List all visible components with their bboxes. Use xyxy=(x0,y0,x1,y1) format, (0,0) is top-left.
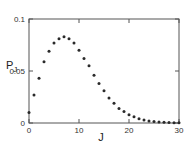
x-tick-label: 20 xyxy=(125,126,134,135)
data-point xyxy=(78,49,81,52)
y-tick-label: 0.1 xyxy=(14,15,26,24)
data-point xyxy=(43,60,46,63)
data-point xyxy=(133,115,136,118)
data-point xyxy=(153,120,156,123)
data-point xyxy=(158,120,161,123)
data-point xyxy=(113,102,116,105)
x-tick-label: 10 xyxy=(75,126,84,135)
data-point xyxy=(93,74,96,77)
y-tick-label: 0 xyxy=(21,119,26,128)
y-axis-label-main: P xyxy=(6,59,13,71)
data-point xyxy=(98,82,101,85)
data-point xyxy=(103,89,106,92)
data-point xyxy=(118,107,121,110)
plot-frame xyxy=(29,19,179,123)
data-point xyxy=(148,119,151,122)
axis-ticks: 010203000.050.1 xyxy=(9,15,184,135)
data-points xyxy=(28,35,181,124)
data-point xyxy=(63,35,66,38)
data-point xyxy=(138,117,141,120)
data-point xyxy=(163,121,166,124)
data-point xyxy=(143,118,146,121)
data-point xyxy=(88,64,91,67)
data-point xyxy=(48,50,51,53)
data-point xyxy=(168,121,171,124)
x-tick-label: 30 xyxy=(175,126,184,135)
data-point xyxy=(173,121,176,124)
data-point xyxy=(73,41,76,44)
data-point xyxy=(33,93,36,96)
data-point xyxy=(108,97,111,100)
data-point xyxy=(68,37,71,40)
scatter-chart: 010203000.050.1 J PJ xyxy=(0,0,190,146)
x-axis-label: J xyxy=(98,131,104,143)
data-point xyxy=(178,121,181,124)
data-point xyxy=(123,110,126,113)
data-point xyxy=(128,113,131,116)
x-tick-label: 0 xyxy=(27,126,32,135)
data-point xyxy=(53,41,56,44)
data-point xyxy=(58,37,61,40)
data-point xyxy=(28,111,31,114)
plot-border xyxy=(29,19,179,123)
y-axis-label-subscript: J xyxy=(13,65,17,74)
data-point xyxy=(83,57,86,60)
data-point xyxy=(38,77,41,80)
